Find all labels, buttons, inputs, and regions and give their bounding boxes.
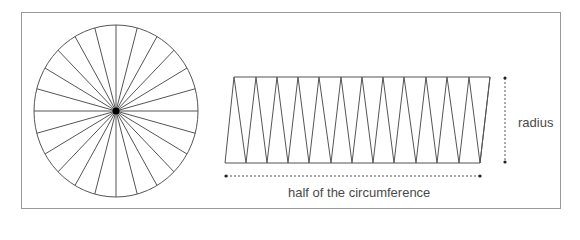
radius-dimension-line [503,76,506,163]
center-point [113,108,120,115]
half-circumference-dimension-line [224,174,481,177]
rearranged-sectors [225,77,490,163]
half-circumference-label: half of the circumference [288,186,430,199]
radius-label: radius [518,116,553,129]
divided-circle [34,25,198,197]
